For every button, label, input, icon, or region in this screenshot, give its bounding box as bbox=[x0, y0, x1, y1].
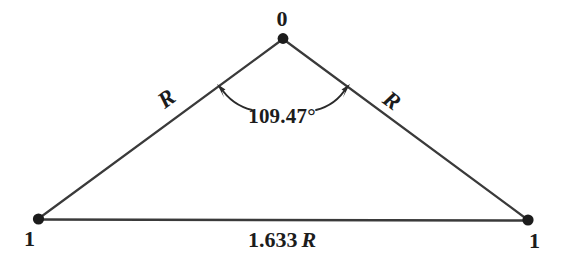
right-leg-line bbox=[283, 39, 528, 220]
apex-vertex-dot bbox=[278, 33, 289, 44]
apex-vertex-label: 0 bbox=[0, 8, 564, 30]
geometry-diagram: 0 1 1 109.47° R R 1.633R bbox=[0, 0, 564, 279]
base-length-number: 1.633 bbox=[248, 227, 298, 252]
apex-angle-label: 109.47° bbox=[0, 106, 564, 127]
angle-arrowhead-left bbox=[217, 84, 226, 98]
base-line bbox=[38, 220, 528, 221]
bottom-right-vertex-dot bbox=[522, 214, 533, 225]
base-length-symbol: R bbox=[297, 227, 316, 252]
left-leg-line bbox=[38, 39, 283, 219]
bottom-left-vertex-dot bbox=[33, 213, 44, 224]
base-length-label: 1.633R bbox=[0, 229, 564, 251]
